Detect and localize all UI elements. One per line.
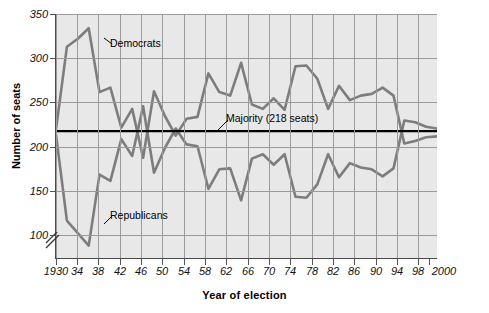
ytick-200 (50, 147, 55, 148)
xtick-label-1954: 54 (174, 265, 194, 277)
xtick-label-1982: 82 (323, 265, 343, 277)
xtick-label-1994: 94 (387, 265, 407, 277)
xtick-label-1966: 66 (238, 265, 258, 277)
xtick-label-1934: 34 (67, 265, 87, 277)
xtick-label-1962: 62 (216, 265, 236, 277)
ytick-100 (50, 235, 55, 236)
ytick-label-100: 100 (8, 229, 48, 241)
xtick-label-1998: 98 (408, 265, 428, 277)
ytick-label-350: 350 (8, 8, 48, 20)
xtick-label-1946: 46 (131, 265, 151, 277)
annotation-republicans: Republicans (110, 209, 168, 221)
xtick-label-1986: 86 (344, 265, 364, 277)
xtick-label-1930: 1930 (42, 265, 70, 277)
chart-figure: 350 300 250 200 150 100 1930 34 38 42 46… (0, 0, 489, 313)
xtick-label-1938: 38 (88, 265, 108, 277)
ytick-label-300: 300 (8, 52, 48, 64)
xtick-label-1978: 78 (302, 265, 322, 277)
xtick-label-1958: 58 (195, 265, 215, 277)
axis-line-y (55, 14, 56, 259)
xtick-label-1970: 70 (259, 265, 279, 277)
xtick-label-1942: 42 (110, 265, 130, 277)
ytick-label-150: 150 (8, 185, 48, 197)
plot-area (56, 14, 437, 258)
ytick-250 (50, 102, 55, 103)
ytick-150 (50, 191, 55, 192)
y-axis-title: Number of seats (10, 66, 22, 186)
annotation-democrats: Democrats (110, 37, 161, 49)
annotation-majority: Majority (218 seats) (226, 112, 318, 124)
axis-line-x (55, 258, 437, 259)
ytick-350 (50, 14, 55, 15)
xtick-label-1974: 74 (280, 265, 300, 277)
xtick-label-1990: 90 (366, 265, 386, 277)
xtick-label-1950: 50 (152, 265, 172, 277)
annotation-leaders (56, 14, 437, 258)
x-axis-title: Year of election (0, 289, 489, 301)
ytick-300 (50, 58, 55, 59)
xtick-label-2000: 2000 (429, 265, 459, 277)
